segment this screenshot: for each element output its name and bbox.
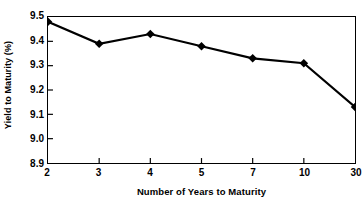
- x-axis-title: Number of Years to Maturity: [47, 186, 356, 197]
- y-tick-label: 8.9: [14, 159, 44, 169]
- data-point-marker: [248, 54, 257, 62]
- data-series-line: [48, 22, 355, 107]
- data-point-marker: [146, 30, 155, 38]
- y-tick-label: 9.4: [14, 36, 44, 46]
- y-tick-label: 9.2: [14, 85, 44, 95]
- y-axis-tick-labels: 9.59.49.39.29.19.08.9: [14, 16, 44, 164]
- x-axis-tick-labels: 234571030: [47, 167, 356, 181]
- plot-area: [47, 16, 356, 164]
- x-tick-label: 7: [250, 167, 256, 179]
- y-tick-marks: [48, 41, 53, 138]
- data-point-marker: [95, 40, 104, 48]
- y-tick-label: 9.3: [14, 60, 44, 70]
- data-series-markers: [48, 18, 355, 112]
- x-tick-marks: [99, 158, 304, 163]
- x-tick-label: 5: [199, 167, 205, 179]
- x-tick-label: 2: [44, 167, 50, 179]
- x-tick-label: 4: [147, 167, 153, 179]
- plot-svg: [48, 17, 355, 163]
- y-tick-label: 9.5: [14, 11, 44, 21]
- data-point-marker: [197, 42, 206, 50]
- x-tick-label: 30: [350, 167, 361, 179]
- y-axis-title-label: Yield to Maturity (%): [3, 41, 13, 129]
- y-tick-label: 9.1: [14, 110, 44, 120]
- x-tick-label: 3: [96, 167, 102, 179]
- data-point-marker: [48, 18, 52, 26]
- y-tick-label: 9.0: [14, 134, 44, 144]
- x-tick-label: 10: [299, 167, 310, 179]
